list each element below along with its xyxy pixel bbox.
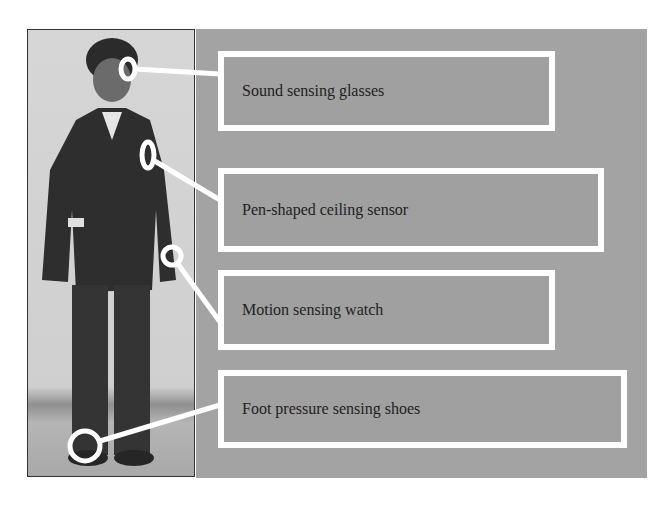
marker-shoes-icon	[70, 431, 100, 461]
connector-ceiling-sensor	[153, 160, 220, 200]
marker-watch-icon	[163, 247, 181, 265]
marker-ceiling-sensor-icon	[142, 142, 154, 168]
callout-overlay	[0, 0, 672, 505]
connector-watch	[178, 264, 220, 322]
connector-glasses	[135, 69, 220, 74]
marker-glasses-icon	[121, 59, 135, 79]
connector-shoes	[100, 405, 220, 441]
